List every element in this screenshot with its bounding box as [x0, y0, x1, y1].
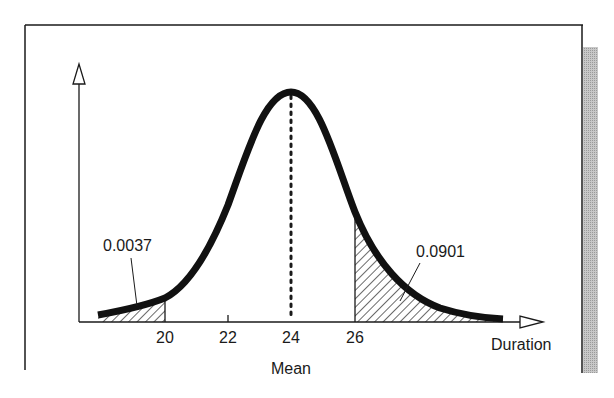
- x-axis-label: Duration: [491, 336, 551, 353]
- x-axis-arrow-icon: [520, 316, 543, 328]
- mean-label: Mean: [271, 360, 311, 377]
- tick-label-26: 26: [346, 329, 364, 346]
- frame-shadow: [583, 47, 598, 373]
- tick-label-22: 22: [219, 329, 237, 346]
- left-tail-probability-label: 0.0037: [103, 237, 152, 254]
- tick-label-20: 20: [156, 329, 174, 346]
- y-axis: [73, 64, 85, 322]
- density-curve: [98, 92, 503, 319]
- y-axis-arrow-icon: [73, 64, 85, 84]
- right-tail-probability-label: 0.0901: [416, 243, 465, 260]
- left-tail-leader: [131, 258, 137, 306]
- probability-distribution-chart: 0.0037 0.0901 20 22 24 26 Mean Duration: [0, 0, 614, 398]
- tick-label-24: 24: [282, 329, 300, 346]
